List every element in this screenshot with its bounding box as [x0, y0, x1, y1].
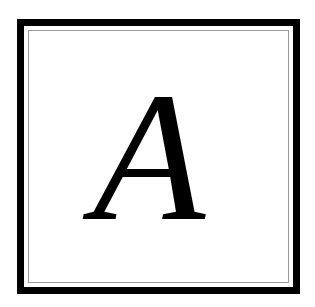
letter-glyph: A: [82, 55, 207, 259]
letter-tile: A: [0, 0, 315, 307]
